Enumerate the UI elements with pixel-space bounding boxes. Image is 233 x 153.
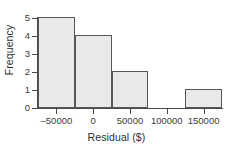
- y-tick-label: 5: [4, 13, 30, 23]
- x-axis-title: Residual ($): [0, 131, 233, 143]
- x-tick-label: 150000: [188, 115, 220, 126]
- y-tick-label: 1: [4, 85, 30, 95]
- y-tick-label: 2: [4, 67, 30, 77]
- histogram-bar: [185, 89, 222, 108]
- x-tick-mark: [56, 109, 57, 114]
- plot-area: [38, 14, 222, 108]
- histogram-bar: [38, 17, 75, 108]
- histogram-bar: [112, 71, 149, 108]
- x-tick-label: –50000: [41, 115, 73, 126]
- histogram-bar: [75, 35, 112, 108]
- x-tick-label: 100000: [151, 115, 183, 126]
- x-tick-mark: [130, 109, 131, 114]
- x-tick-mark: [167, 109, 168, 114]
- histogram-chart: Frequency 012345 –5000005000010000015000…: [0, 0, 233, 153]
- x-tick-label: 0: [91, 115, 96, 126]
- x-tick-mark: [93, 109, 94, 114]
- x-tick-mark: [204, 109, 205, 114]
- y-tick-label: 0: [4, 103, 30, 113]
- x-tick-label: 50000: [117, 115, 143, 126]
- y-tick-label: 4: [4, 31, 30, 41]
- y-tick-label: 3: [4, 49, 30, 59]
